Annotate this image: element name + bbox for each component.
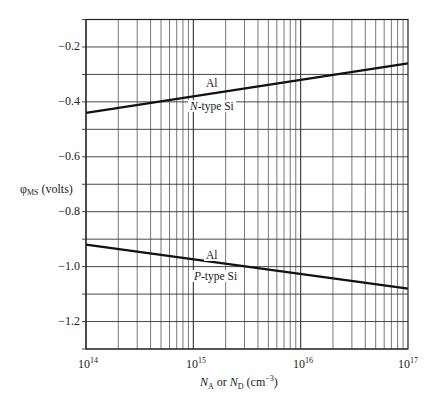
plot-area (0, 0, 442, 404)
y-axis-label: φMS (volts) (20, 182, 73, 197)
y-axis-symbol: φ (20, 182, 27, 196)
grid-lines (82, 20, 408, 350)
n-type-si-label: N-type Si (188, 100, 236, 112)
y-tick-label: −1.2 (40, 314, 80, 329)
data-lines (86, 63, 408, 288)
x-axis-label: NA or ND (cm−3) (200, 374, 278, 391)
x-tick-label: 1015 (186, 356, 206, 372)
y-tick-label: −0.8 (40, 204, 80, 219)
p-type-metal-label: Al (204, 249, 220, 261)
y-tick-label: −0.6 (40, 149, 80, 164)
x-tick-label: 1017 (398, 356, 418, 372)
p-type-si-label: P-type Si (192, 270, 239, 282)
n-type-metal-label: Al (204, 77, 220, 89)
y-tick-label: −0.4 (40, 94, 80, 109)
y-tick-label: −0.2 (40, 39, 80, 54)
x-tick-label: 1014 (78, 356, 98, 372)
y-tick-label: −1.0 (40, 259, 80, 274)
y-axis-unit: (volts) (39, 182, 73, 196)
series-line (86, 63, 408, 112)
y-axis-subscript: MS (27, 188, 39, 197)
x-tick-label: 1016 (293, 356, 313, 372)
